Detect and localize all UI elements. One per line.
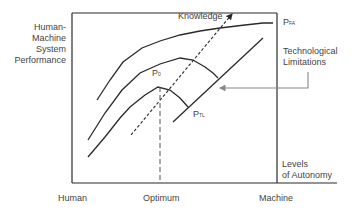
ptl-sub: TL [199,112,205,118]
annotation-line: Technological [283,46,338,57]
p0-sub: 0 [158,71,161,77]
point-pfa-label: PFA [283,17,295,29]
knowledge-label: Knowledge [178,11,223,22]
annotation-line: Limitations [283,57,338,68]
x-axis-label: Levels of Autonomy [282,159,332,181]
technological-limitations-arrow [220,72,308,88]
axes-frame [72,13,337,183]
x-tick-machine: Machine [259,193,293,204]
pfa-sub: FA [289,20,295,26]
knowledge-arrow [131,14,232,135]
x-tick-optimum: Optimum [143,193,180,204]
technological-limitations-label: Technological Limitations [283,46,338,68]
point-p0-label: P0 [152,68,161,80]
technological-limit-line [173,38,263,122]
diagram-canvas [0,0,358,215]
x-tick-human: Human [58,193,87,204]
x-label-line: of Autonomy [282,170,332,181]
point-ptl-label: PTL [193,109,205,121]
x-label-line: Levels [282,159,332,170]
